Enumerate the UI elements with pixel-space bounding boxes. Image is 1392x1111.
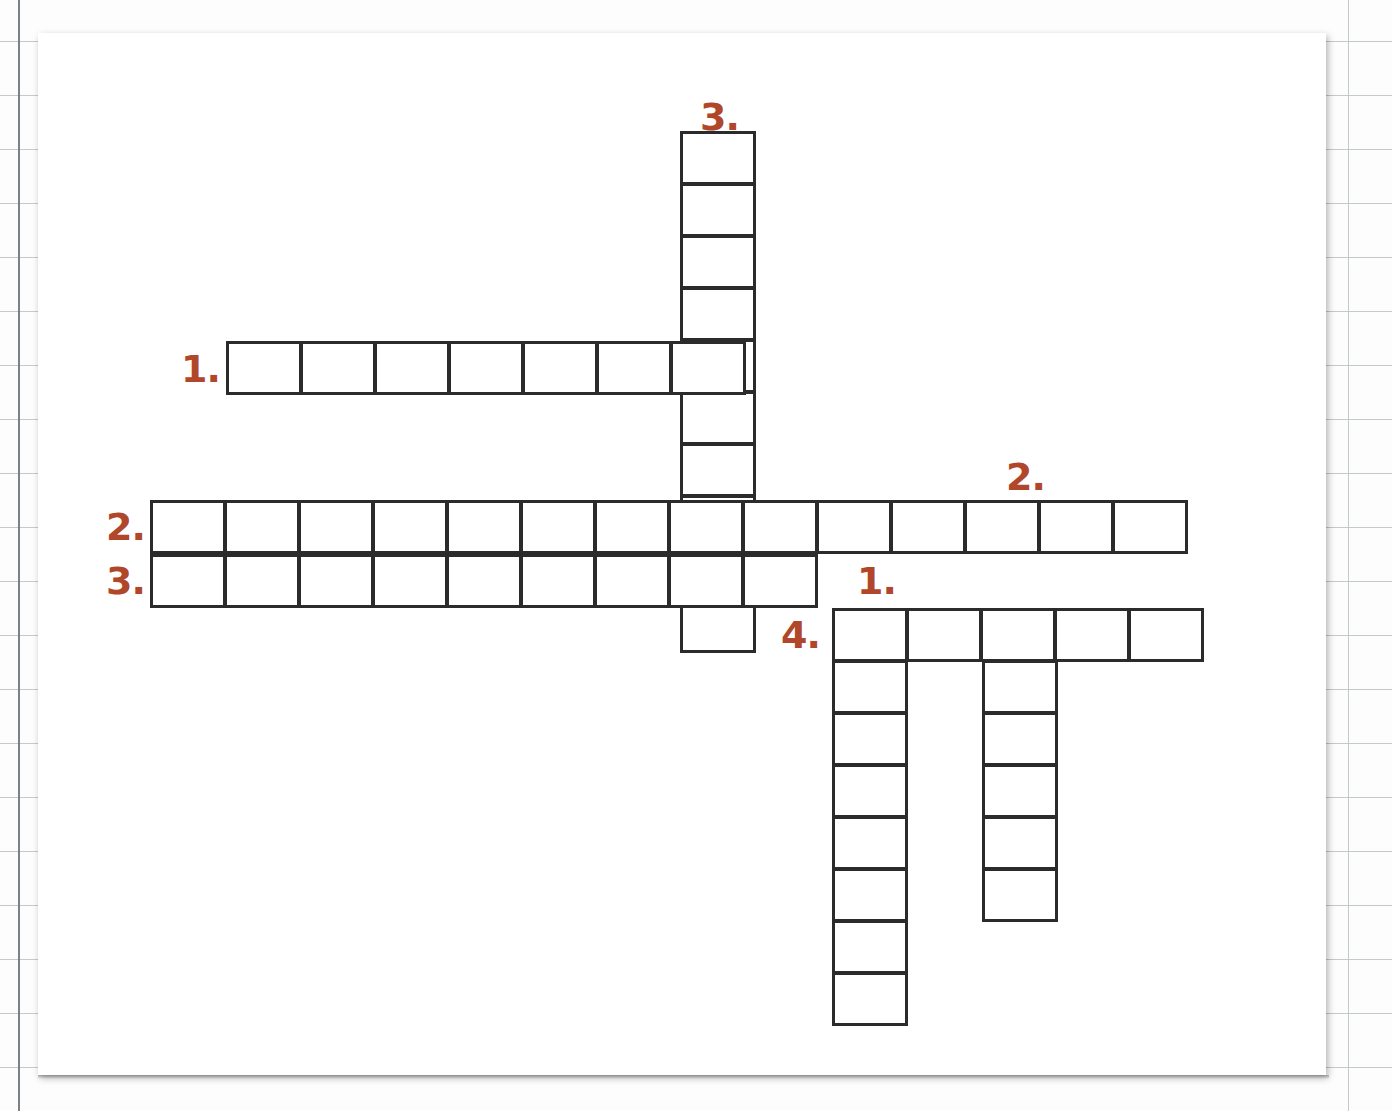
crossword-cell[interactable] — [680, 235, 756, 289]
crossword-cell[interactable] — [832, 920, 908, 974]
clue-number-across-2: 2. — [106, 508, 145, 546]
clue-number-down-1: 1. — [857, 562, 896, 600]
crossword-cell[interactable] — [224, 554, 300, 608]
crossword-cell[interactable] — [832, 764, 908, 818]
crossword-cell[interactable] — [594, 500, 670, 554]
crossword-cell[interactable] — [298, 554, 374, 608]
clue-number-down-3: 3. — [700, 98, 739, 136]
clue-number-across-1: 1. — [181, 350, 220, 388]
crossword-cell[interactable] — [832, 816, 908, 870]
crossword-cell[interactable] — [594, 554, 670, 608]
crossword-cell[interactable] — [520, 554, 596, 608]
crossword-cell[interactable] — [224, 500, 300, 554]
crossword-cell[interactable] — [226, 341, 302, 395]
crossword-cell[interactable] — [906, 608, 982, 662]
crossword-cell[interactable] — [680, 131, 756, 185]
crossword-cell[interactable] — [446, 500, 522, 554]
crossword-cell[interactable] — [446, 554, 522, 608]
crossword-cell[interactable] — [300, 341, 376, 395]
crossword-cell[interactable] — [448, 341, 524, 395]
crossword-cell[interactable] — [832, 712, 908, 766]
crossword-cell[interactable] — [1038, 500, 1114, 554]
crossword-cell[interactable] — [298, 500, 374, 554]
crossword-cell[interactable] — [680, 391, 756, 445]
crossword-grid: 3.1.2.2.3.1.4. — [0, 0, 1392, 1111]
crossword-cell[interactable] — [832, 868, 908, 922]
crossword-cell[interactable] — [832, 972, 908, 1026]
crossword-cell[interactable] — [964, 500, 1040, 554]
crossword-cell[interactable] — [982, 816, 1058, 870]
crossword-cell[interactable] — [668, 554, 744, 608]
crossword-cell[interactable] — [832, 608, 908, 662]
crossword-cell[interactable] — [742, 554, 818, 608]
crossword-cell[interactable] — [372, 554, 448, 608]
crossword-cell[interactable] — [680, 443, 756, 497]
crossword-cell[interactable] — [982, 660, 1058, 714]
crossword-cell[interactable] — [742, 500, 818, 554]
crossword-cell[interactable] — [372, 500, 448, 554]
crossword-cell[interactable] — [680, 287, 756, 341]
crossword-cell[interactable] — [520, 500, 596, 554]
crossword-cell[interactable] — [150, 554, 226, 608]
crossword-cell[interactable] — [680, 183, 756, 237]
clue-number-across-3: 3. — [106, 562, 145, 600]
crossword-cell[interactable] — [982, 764, 1058, 818]
crossword-cell[interactable] — [1112, 500, 1188, 554]
crossword-cell[interactable] — [832, 660, 908, 714]
crossword-cell[interactable] — [1128, 608, 1204, 662]
crossword-cell[interactable] — [522, 341, 598, 395]
clue-number-down-2: 2. — [1006, 458, 1045, 496]
crossword-cell[interactable] — [374, 341, 450, 395]
crossword-cell[interactable] — [980, 608, 1056, 662]
crossword-cell[interactable] — [890, 500, 966, 554]
crossword-cell[interactable] — [982, 712, 1058, 766]
crossword-cell[interactable] — [668, 500, 744, 554]
crossword-cell[interactable] — [982, 868, 1058, 922]
clue-number-across-4: 4. — [781, 616, 820, 654]
crossword-cell[interactable] — [596, 341, 672, 395]
crossword-cell[interactable] — [670, 341, 746, 395]
crossword-cell[interactable] — [150, 500, 226, 554]
crossword-cell[interactable] — [816, 500, 892, 554]
crossword-cell[interactable] — [1054, 608, 1130, 662]
